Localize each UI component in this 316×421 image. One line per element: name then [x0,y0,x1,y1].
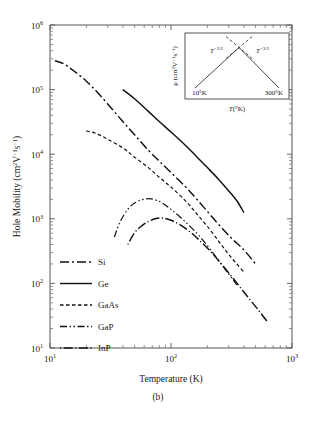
legend-label-si: Si [98,257,106,267]
legend: SiGeGaAsGaPInP [60,257,119,353]
legend-label-gaas: GaAs [98,300,119,310]
y-tick-label-0: 101 [31,342,43,354]
legend-label-gap: GaP [98,322,114,332]
curve-gaas [86,131,243,272]
y-tick-label-5: 106 [31,19,43,31]
inset-y-label: μ (cm2V−1s−1) [171,46,179,86]
y-tick-label-3: 104 [31,148,43,160]
figure-caption: (b) [152,392,163,403]
inset-left-tick-label: 10°K [192,89,207,97]
inset-panel: T−3/2T−3/210°K300°KT(°K)μ (cm2V−1s−1) [171,33,289,113]
legend-label-ge: Ge [98,279,109,289]
y-tick-label-2: 103 [31,213,43,225]
x-axis-title: Temperature (K) [139,374,202,385]
x-tick-label-0: 101 [44,352,56,364]
y-axis-title-text: Hole Mobility (cm2V−1s−1) [11,136,23,237]
y-axis-title: Hole Mobility (cm2V−1s−1) [11,136,23,237]
inset-x-label: T(°K) [229,105,246,113]
inset-right-tick-label: 300°K [265,89,283,97]
x-tick-label-1: 102 [165,352,177,364]
x-tick-label-2: 103 [286,352,298,364]
curves-group [55,61,267,321]
curve-ge [123,90,244,213]
legend-label-inp: InP [98,343,111,353]
figure-container: 101102103101102103104105106Temperature (… [0,0,316,421]
hole-mobility-chart: 101102103101102103104105106Temperature (… [0,0,316,421]
y-tick-label-1: 102 [31,277,43,289]
inset-y-label-text: μ (cm2V−1s−1) [171,46,179,86]
y-tick-label-4: 105 [31,84,43,96]
curve-inp [128,218,267,321]
